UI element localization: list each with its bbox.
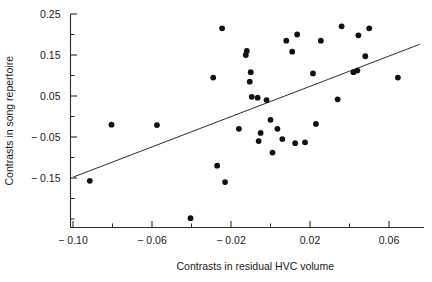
regression-line xyxy=(73,44,420,177)
data-point xyxy=(87,178,93,184)
data-point xyxy=(268,117,274,123)
data-point xyxy=(366,25,372,31)
data-point xyxy=(339,23,345,29)
y-axis-title: Contrasts in song repertoire xyxy=(3,56,15,186)
data-point xyxy=(255,95,261,101)
data-point xyxy=(249,94,255,100)
data-point xyxy=(219,25,225,31)
data-point xyxy=(236,126,242,132)
data-point xyxy=(256,138,262,144)
y-axis-tick-label: − 0.05 xyxy=(31,131,61,143)
data-point xyxy=(283,38,289,44)
data-point xyxy=(302,139,308,145)
data-point xyxy=(188,215,194,221)
data-point xyxy=(362,53,368,59)
data-point xyxy=(313,121,319,127)
data-point xyxy=(222,179,228,185)
data-point xyxy=(109,122,115,128)
data-point xyxy=(214,163,220,169)
axes-group: 0.250.150.05− 0.05− 0.15− 0.10− 0.06− 0.… xyxy=(31,8,424,246)
data-point xyxy=(248,69,254,75)
data-point xyxy=(335,96,341,102)
data-point xyxy=(355,32,361,38)
data-point xyxy=(247,79,253,85)
data-point xyxy=(292,140,298,146)
x-axis-title: Contrasts in residual HVC volume xyxy=(176,260,334,272)
regression-line-group xyxy=(73,44,420,177)
x-axis-tick-label: 0.06 xyxy=(379,234,400,246)
x-axis-tick-label: − 0.10 xyxy=(58,234,88,246)
data-point xyxy=(264,97,270,103)
data-point xyxy=(395,75,401,81)
data-point xyxy=(258,130,264,136)
x-axis-tick-label: 0.02 xyxy=(300,234,321,246)
y-axis-tick-label: 0.15 xyxy=(40,49,61,61)
x-axis-tick-label: − 0.02 xyxy=(216,234,246,246)
data-point xyxy=(270,150,276,156)
data-point xyxy=(279,136,285,142)
data-point xyxy=(289,49,295,55)
data-point xyxy=(210,75,216,81)
data-point xyxy=(275,126,281,132)
data-points-group xyxy=(87,23,401,221)
y-axis-tick-label: − 0.15 xyxy=(31,172,61,184)
x-axis-tick-label: − 0.06 xyxy=(137,234,167,246)
plot-canvas: 0.250.150.05− 0.05− 0.15− 0.10− 0.06− 0.… xyxy=(0,0,432,282)
data-point xyxy=(294,32,300,38)
axis-titles-group: Contrasts in residual HVC volumeContrast… xyxy=(3,56,334,272)
data-point xyxy=(310,71,316,77)
y-axis-tick-label: 0.05 xyxy=(40,90,61,102)
data-point xyxy=(355,68,361,74)
scatter-plot-figure: 0.250.150.05− 0.05− 0.15− 0.10− 0.06− 0.… xyxy=(0,0,432,282)
data-point xyxy=(154,122,160,128)
data-point xyxy=(244,48,250,54)
y-axis-tick-label: 0.25 xyxy=(40,8,61,20)
data-point xyxy=(318,38,324,44)
